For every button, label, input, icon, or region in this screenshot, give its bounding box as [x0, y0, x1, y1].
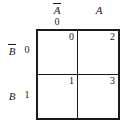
- column-header-a-not-label: A: [53, 4, 62, 16]
- column-index-0: 0: [36, 17, 78, 27]
- row-header-b-not-label: B: [8, 45, 17, 57]
- cell-minterm-index: 3: [110, 76, 115, 86]
- cell-minterm-index: 0: [69, 32, 74, 42]
- row-header-b-not: B: [2, 45, 22, 57]
- kmap-cell[interactable]: 0: [38, 31, 78, 75]
- cell-minterm-index: 2: [110, 32, 115, 42]
- column-header-a: A: [78, 4, 120, 16]
- kmap-cell[interactable]: 1: [38, 75, 78, 119]
- row-header-b-label: B: [8, 90, 17, 102]
- row-header-b: B: [2, 90, 22, 102]
- karnaugh-map-figure: A 0 A B 0 B 1 0 2 1 3: [0, 0, 129, 127]
- kmap-cell[interactable]: 2: [78, 31, 118, 75]
- kmap-cell[interactable]: 3: [78, 75, 118, 119]
- column-header-a-not: A: [36, 4, 78, 16]
- column-header-a-label: A: [95, 4, 104, 16]
- cell-minterm-index: 1: [69, 76, 74, 86]
- row-index-0: 0: [20, 45, 34, 55]
- kmap-grid: 0 2 1 3: [36, 29, 120, 120]
- row-index-1: 1: [20, 90, 34, 100]
